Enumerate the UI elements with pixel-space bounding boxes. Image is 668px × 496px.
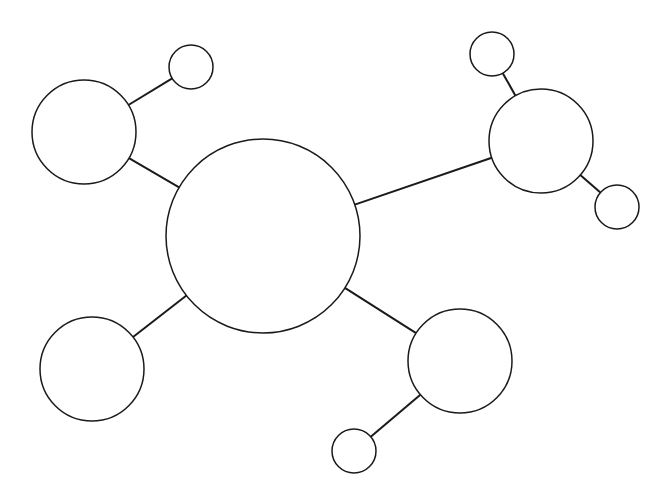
connector-top-left-to-top-left-child <box>128 78 172 105</box>
bubble-bottom-right <box>408 309 512 413</box>
bubble-top-left <box>32 80 136 184</box>
connector-bottom-right-to-bottom-right-child <box>371 395 421 437</box>
bubble-center <box>166 139 360 333</box>
bubble-right-child-top <box>470 32 514 76</box>
connector-center-to-top-left <box>129 158 179 187</box>
bubble-bottom-right-child <box>332 429 376 473</box>
connector-center-to-right <box>355 158 492 205</box>
bubble-bottom-left <box>40 317 144 421</box>
bubble-map-diagram <box>0 0 668 496</box>
bubble-right-child-bottom <box>595 185 639 229</box>
bubble-right <box>489 89 593 193</box>
connector-right-to-right-child-top <box>503 73 516 96</box>
bubble-top-left-child <box>169 45 213 89</box>
bubble-nodes <box>32 32 639 473</box>
connector-center-to-bottom-left <box>133 296 186 338</box>
connector-center-to-bottom-right <box>345 288 416 333</box>
connector-right-to-right-child-bottom <box>580 175 600 192</box>
